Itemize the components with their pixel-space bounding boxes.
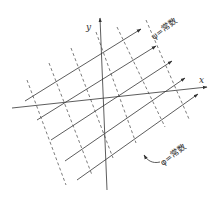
pointer-arrow-icon [144,155,160,163]
axes: y x [12,18,207,190]
x-axis [12,87,207,108]
y-axis-label: y [85,22,92,32]
x-axis-label: x [199,75,204,85]
stream-const-label: ψ=常数 [149,15,179,42]
potential-const-label: φ=常数 [158,141,188,168]
flow-net-diagram: y x ψ=常数 φ=常数 [0,0,222,203]
